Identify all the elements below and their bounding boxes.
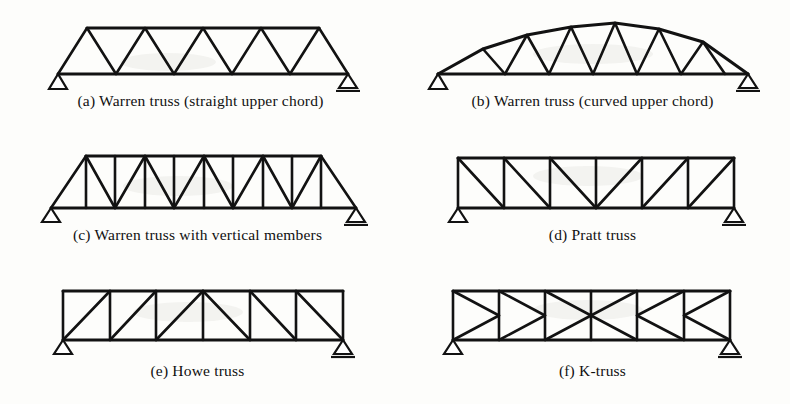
- truss-diagram-a: [18, 4, 378, 92]
- panel-c-warren-vertical: (c) Warren truss with vertical members: [0, 136, 395, 244]
- panel-f-k-truss: (f) K-truss: [395, 272, 790, 380]
- pin-support-f: [444, 340, 462, 354]
- vertical-members-c: [86, 156, 321, 208]
- truss-diagram-f: [418, 272, 768, 362]
- pin-support-b: [429, 74, 447, 89]
- pin-support-c: [42, 208, 60, 222]
- roller-support-e: [331, 340, 355, 357]
- caption-a: (a) Warren truss (straight upper chord): [0, 92, 395, 110]
- truss-diagram-c: [18, 136, 378, 226]
- vertical-members-e: [63, 291, 343, 340]
- roller-support-c: [344, 208, 368, 225]
- pin-support-d: [449, 208, 467, 222]
- roller-support-a: [336, 74, 360, 91]
- caption-c: (c) Warren truss with vertical members: [0, 226, 395, 244]
- panel-e-howe: (e) Howe truss: [0, 272, 395, 380]
- web-members-b: [483, 23, 725, 74]
- truss-diagram-d: [418, 136, 768, 226]
- pin-support-e: [54, 340, 72, 354]
- pin-support-a: [49, 74, 67, 89]
- caption-f: (f) K-truss: [395, 362, 790, 380]
- truss-diagram-b: [408, 4, 778, 92]
- vertical-members-d: [458, 158, 734, 208]
- truss-diagram-e: [18, 272, 378, 362]
- caption-b: (b) Warren truss (curved upper chord): [395, 92, 790, 110]
- panel-d-pratt: (d) Pratt truss: [395, 136, 790, 244]
- truss-figure: (a) Warren truss (straight upper chord): [0, 0, 790, 404]
- caption-e: (e) Howe truss: [0, 362, 395, 380]
- caption-d: (d) Pratt truss: [395, 226, 790, 244]
- panel-a-warren-straight: (a) Warren truss (straight upper chord): [0, 4, 395, 110]
- roller-support-b: [736, 74, 760, 91]
- panel-b-warren-curved: (b) Warren truss (curved upper chord): [395, 4, 790, 110]
- roller-support-d: [722, 208, 746, 225]
- roller-support-f: [718, 340, 742, 357]
